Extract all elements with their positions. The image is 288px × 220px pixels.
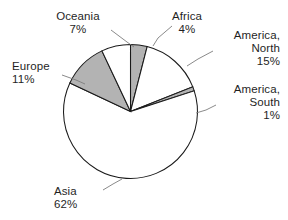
pie-label-america-north-name: America, [234,29,280,41]
pie-label-oceania-name: Oceania [56,10,100,22]
pie-label-oceania-value: 7% [47,23,109,36]
pie-label-america-south-name2: South [198,96,280,109]
pie-label-oceania: Oceania 7% [47,10,109,36]
pie-label-asia-name: Asia [54,185,77,197]
pie-slices [63,44,197,178]
pie-label-america-south: America, South 1% [198,83,280,122]
pie-label-asia-value: 62% [54,198,106,211]
pie-label-europe: Europe 11% [12,60,72,86]
pie-label-asia: Asia 62% [54,185,106,211]
pie-chart-figure: Oceania 7% Africa 4% America, North 15% … [0,0,288,220]
pie-label-america-north-name2: North [198,42,280,55]
pie-label-africa-name: Africa [172,10,202,22]
pie-label-europe-name: Europe [12,60,50,72]
pie-label-europe-value: 11% [12,73,72,86]
pie-label-america-north: America, North 15% [198,29,280,68]
pie-label-america-south-value: 1% [198,109,280,122]
pie-label-america-south-name: America, [234,83,280,95]
pie-label-america-north-value: 15% [198,55,280,68]
